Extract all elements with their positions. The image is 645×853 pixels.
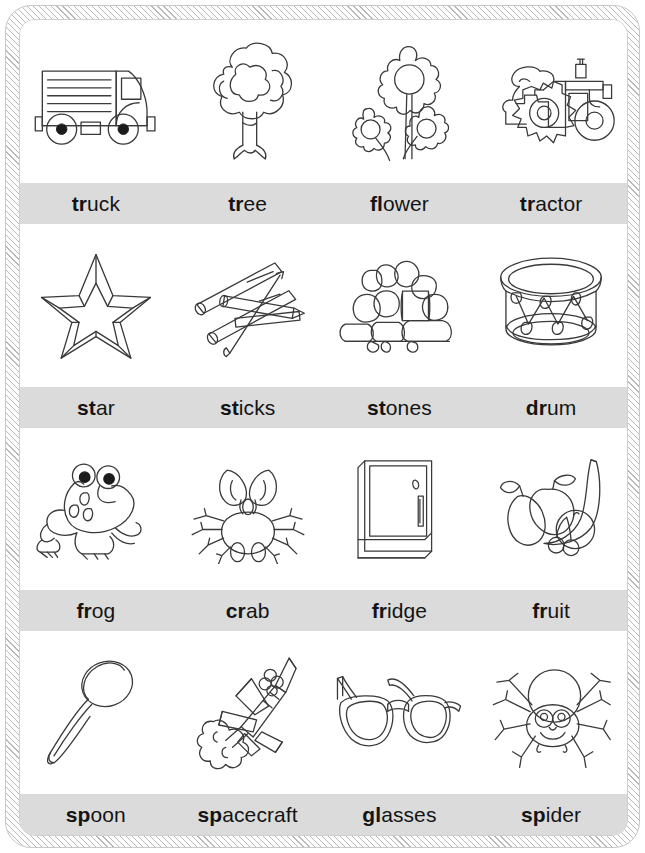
spider-icon [490,654,612,772]
sticks-icon [183,250,313,360]
worksheet-row-2: star sticks stones drum [20,224,627,428]
row-1-labels: truck tree flower tractor [20,183,627,224]
glasses-icon [334,661,464,765]
picture-cell-fruit [475,428,627,591]
row-2-labels: star sticks stones drum [20,387,627,428]
picture-cell-stones [324,224,476,387]
row-1-pictures [20,20,627,183]
picture-cell-fridge [324,428,476,591]
row-4-labels: spoon spacecraft glasses spider [20,794,627,835]
picture-cell-crab [172,428,324,591]
picture-cell-tree [172,20,324,183]
row-4-pictures [20,631,627,794]
word-label-spoon: spoon [20,804,172,825]
star-icon [38,249,154,361]
word-label-sticks: sticks [172,397,324,418]
word-label-tractor: tractor [475,193,627,214]
decorative-hatched-border: truck tree flower tractor [5,5,640,848]
word-label-tree: tree [172,193,324,214]
word-label-frog: frog [20,600,172,621]
word-label-star: star [20,397,172,418]
picture-cell-spoon [20,631,172,794]
word-label-fridge: fridge [324,600,476,621]
picture-cell-flower [324,20,476,183]
worksheet-page: truck tree flower tractor [0,0,645,853]
tree-icon [196,36,300,166]
spoon-icon [40,653,152,773]
row-3-labels: frog crab fridge fruit [20,590,627,631]
word-label-truck: truck [20,193,172,214]
stones-icon [338,253,460,357]
tractor-icon [487,45,615,157]
flower-icon [343,36,455,166]
truck-icon [30,48,162,154]
picture-cell-spacecraft [172,631,324,794]
fridge-icon [353,451,445,567]
word-label-crab: crab [172,600,324,621]
drum-icon [490,253,612,357]
word-label-fruit: fruit [475,600,627,621]
word-label-spacecraft: spacecraft [172,804,324,825]
picture-cell-tractor [475,20,627,183]
picture-cell-spider [475,631,627,794]
worksheet-row-3: frog crab fridge fruit [20,428,627,632]
picture-cell-sticks [172,224,324,387]
picture-word-grid: truck tree flower tractor [20,20,627,835]
fruit-icon [490,454,612,564]
picture-cell-frog [20,428,172,591]
picture-cell-star [20,224,172,387]
picture-cell-drum [475,224,627,387]
worksheet-row-1: truck tree flower tractor [20,20,627,224]
word-label-stones: stones [324,397,476,418]
worksheet-content-area: truck tree flower tractor [19,19,628,836]
picture-cell-truck [20,20,172,183]
word-label-drum: drum [475,397,627,418]
worksheet-row-4: spoon spacecraft glasses spider [20,631,627,835]
word-label-flower: flower [324,193,476,214]
word-label-spider: spider [475,804,627,825]
frog-icon [35,454,157,564]
row-3-pictures [20,428,627,591]
word-label-glasses: glasses [324,804,476,825]
row-2-pictures [20,224,627,387]
spacecraft-icon [187,653,309,773]
crab-icon [187,454,309,564]
picture-cell-glasses [324,631,476,794]
